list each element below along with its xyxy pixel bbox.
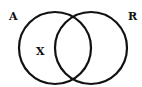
set-a-label: A xyxy=(8,10,18,23)
region-x-label: X xyxy=(36,45,45,58)
set-r-label: R xyxy=(128,10,138,23)
venn-diagram: A R X xyxy=(0,0,142,87)
